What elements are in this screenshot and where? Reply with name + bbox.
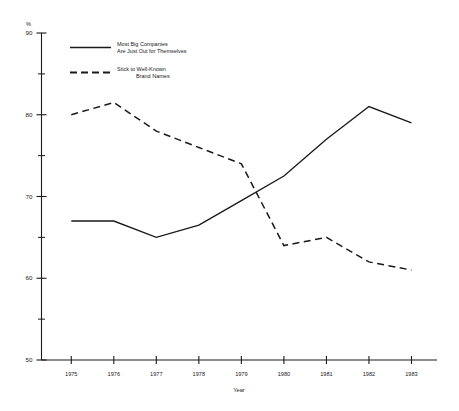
y-axis-tick-label: 60: [26, 274, 33, 281]
x-axis-tick-label: 1975: [65, 371, 77, 377]
legend-label-dashed-line2: Brand Names: [136, 73, 170, 79]
x-axis-tick-label: 1979: [235, 371, 247, 377]
legend-label-solid-line2: Are Just Out for Themselves: [117, 48, 187, 54]
x-axis-tick-label: 1982: [363, 371, 375, 377]
y-axis-tick-label: 80: [26, 111, 33, 118]
x-axis-tick-label: 1977: [150, 371, 162, 377]
x-axis-tick-label: 1978: [193, 371, 205, 377]
x-axis-title: Year: [233, 387, 244, 393]
y-axis-tick-label: 50: [26, 356, 33, 363]
chart-svg: % 5060708090 197519761977197819791980198…: [0, 0, 459, 411]
y-axis-unit-label: %: [26, 21, 31, 27]
series-line-most-big-companies: [71, 107, 411, 238]
series-line-stick-to-well-known-brand-names: [71, 102, 411, 270]
x-axis-tick-label: 1981: [320, 371, 332, 377]
x-axis-tick-label: 1980: [278, 371, 290, 377]
line-chart: % 5060708090 197519761977197819791980198…: [0, 0, 459, 411]
legend-label-dashed-line1: Stick to Well-Known: [117, 66, 166, 72]
y-axis-tick-labels: 5060708090: [26, 29, 33, 363]
legend-label-solid-line1: Most Big Companies: [117, 41, 168, 47]
y-axis-tick-label: 90: [26, 29, 33, 36]
chart-legend: Most Big Companies Are Just Out for Them…: [70, 41, 187, 79]
y-axis-tick-label: 70: [26, 193, 33, 200]
x-axis-tick-label: 1983: [405, 371, 417, 377]
x-axis-tick-label: 1976: [108, 371, 120, 377]
x-axis-tick-labels: 197519761977197819791980198119821983: [65, 371, 418, 377]
